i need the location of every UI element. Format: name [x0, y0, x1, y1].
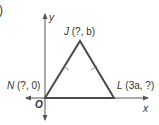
x-axis-label: x [143, 104, 148, 114]
point-J-name: J [64, 26, 69, 37]
point-N-label: N (?, 0) [7, 81, 40, 91]
coordinate-plane [0, 0, 159, 125]
y-axis-label: y [49, 13, 54, 23]
point-L-coords: (3a, ?) [125, 80, 154, 91]
point-J-label: J (?, b) [64, 27, 95, 37]
point-L-name: L [117, 80, 123, 91]
point-N-coords: (?, 0) [17, 80, 40, 91]
point-L-label: L (3a, ?) [117, 81, 154, 91]
point-J-coords: (?, b) [72, 26, 95, 37]
triangle-NJL [45, 41, 114, 98]
origin-label: O [35, 100, 43, 110]
point-N-name: N [7, 80, 14, 91]
